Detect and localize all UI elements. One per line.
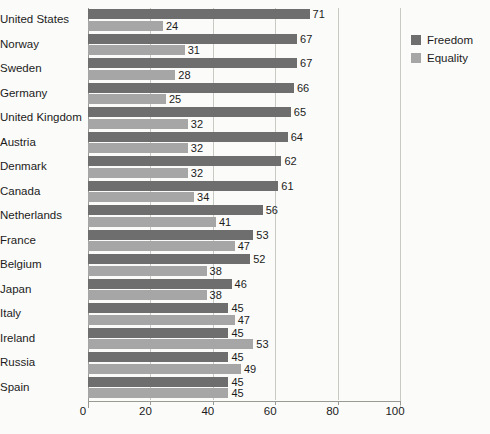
legend-label: Equality bbox=[427, 52, 468, 64]
bar-equality bbox=[88, 119, 188, 129]
category-label: Japan bbox=[0, 283, 84, 295]
bar-value-label: 32 bbox=[191, 168, 203, 179]
bar-freedom bbox=[88, 181, 278, 191]
x-tick-label: 0 bbox=[80, 405, 86, 417]
bar-freedom bbox=[88, 230, 253, 240]
category-label: United States bbox=[0, 13, 84, 25]
x-tick-label: 100 bbox=[385, 405, 404, 417]
bar-equality bbox=[88, 339, 253, 349]
x-tick-label: 60 bbox=[264, 405, 277, 417]
bar-group: 4545 bbox=[88, 376, 400, 401]
bar-value-label: 41 bbox=[219, 217, 231, 228]
bar-freedom bbox=[88, 279, 232, 289]
bar-group: 4638 bbox=[88, 278, 400, 303]
bar-group: 6134 bbox=[88, 180, 400, 205]
bar-group: 4549 bbox=[88, 351, 400, 376]
bar-value-label: 24 bbox=[166, 21, 178, 32]
bar-freedom bbox=[88, 352, 228, 362]
bar-equality bbox=[88, 45, 185, 55]
chart-figure: United StatesNorwaySwedenGermanyUnited K… bbox=[0, 0, 490, 434]
bar-value-label: 31 bbox=[188, 45, 200, 56]
bar-equality bbox=[88, 315, 235, 325]
x-tick-label: 20 bbox=[139, 405, 152, 417]
bar-value-label: 28 bbox=[178, 70, 190, 81]
bar-freedom bbox=[88, 9, 310, 19]
bar-value-label: 38 bbox=[210, 290, 222, 301]
bar-value-label: 32 bbox=[191, 143, 203, 154]
bar-freedom bbox=[88, 58, 297, 68]
bar-value-label: 66 bbox=[297, 83, 309, 94]
bar-group: 5238 bbox=[88, 253, 400, 278]
bar-equality bbox=[88, 21, 163, 31]
bar-group: 5347 bbox=[88, 229, 400, 254]
category-label: Belgium bbox=[0, 258, 84, 270]
bar-equality bbox=[88, 143, 188, 153]
bar-value-label: 47 bbox=[238, 315, 250, 326]
x-tick-label: 80 bbox=[326, 405, 339, 417]
bar-equality bbox=[88, 192, 194, 202]
legend-swatch-icon bbox=[411, 53, 421, 63]
bar-freedom bbox=[88, 377, 228, 387]
bar-value-label: 32 bbox=[191, 119, 203, 130]
category-label: Italy bbox=[0, 307, 84, 319]
x-tick-label: 40 bbox=[201, 405, 214, 417]
bar-group: 4553 bbox=[88, 327, 400, 352]
category-label: Netherlands bbox=[0, 209, 84, 221]
gridline bbox=[400, 8, 401, 400]
category-label: Sweden bbox=[0, 62, 84, 74]
bar-group: 4547 bbox=[88, 302, 400, 327]
x-tick-mark bbox=[88, 401, 89, 405]
bar-value-label: 47 bbox=[238, 241, 250, 252]
bar-freedom bbox=[88, 156, 281, 166]
bar-equality bbox=[88, 70, 175, 80]
bar-equality bbox=[88, 364, 241, 374]
bar-value-label: 65 bbox=[294, 107, 306, 118]
bar-value-label: 45 bbox=[231, 377, 243, 388]
x-axis-line bbox=[88, 401, 401, 402]
bar-group: 5641 bbox=[88, 204, 400, 229]
category-label: Denmark bbox=[0, 160, 84, 172]
category-label: France bbox=[0, 234, 84, 246]
category-label: Ireland bbox=[0, 332, 84, 344]
bar-equality bbox=[88, 290, 207, 300]
category-label: Spain bbox=[0, 381, 84, 393]
bar-group: 6432 bbox=[88, 131, 400, 156]
legend-item[interactable]: Freedom bbox=[411, 33, 473, 46]
legend-item[interactable]: Equality bbox=[411, 51, 473, 64]
bar-value-label: 53 bbox=[256, 230, 268, 241]
bar-equality bbox=[88, 388, 228, 398]
bar-group: 6625 bbox=[88, 82, 400, 107]
legend-label: Freedom bbox=[427, 34, 473, 46]
category-label: Germany bbox=[0, 87, 84, 99]
bar-value-label: 46 bbox=[235, 279, 247, 290]
bar-value-label: 67 bbox=[300, 58, 312, 69]
category-label: United Kingdom bbox=[0, 111, 84, 123]
bar-value-label: 45 bbox=[231, 388, 243, 399]
bar-equality bbox=[88, 266, 207, 276]
category-label: Russia bbox=[0, 356, 84, 368]
bar-value-label: 34 bbox=[197, 192, 209, 203]
x-axis-tick-labels: 020406080100 bbox=[88, 405, 401, 425]
bar-value-label: 53 bbox=[256, 339, 268, 350]
bar-freedom bbox=[88, 303, 228, 313]
bar-value-label: 49 bbox=[244, 364, 256, 375]
bar-value-label: 38 bbox=[210, 266, 222, 277]
bar-value-label: 64 bbox=[291, 132, 303, 143]
bar-value-label: 67 bbox=[300, 34, 312, 45]
bar-value-label: 45 bbox=[231, 352, 243, 363]
bar-value-label: 25 bbox=[169, 94, 181, 105]
category-label: Norway bbox=[0, 38, 84, 50]
legend-swatch-icon bbox=[411, 35, 421, 45]
bar-value-label: 45 bbox=[231, 328, 243, 339]
bar-freedom bbox=[88, 328, 228, 338]
bar-freedom bbox=[88, 132, 288, 142]
bar-value-label: 45 bbox=[231, 303, 243, 314]
bar-equality bbox=[88, 94, 166, 104]
category-label: Austria bbox=[0, 136, 84, 148]
bar-group: 6728 bbox=[88, 57, 400, 82]
chart-legend: FreedomEquality bbox=[411, 33, 473, 69]
bar-equality bbox=[88, 241, 235, 251]
bar-equality bbox=[88, 217, 216, 227]
bar-equality bbox=[88, 168, 188, 178]
bar-value-label: 61 bbox=[281, 181, 293, 192]
